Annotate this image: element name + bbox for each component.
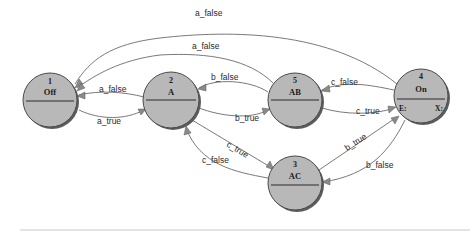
arrowhead-icon [262, 108, 270, 115]
arrowhead-icon [321, 85, 330, 92]
edge-3-to-2: c_false [184, 126, 268, 178]
edge-5-to-4: c_true [322, 106, 396, 116]
edge-label: b_false [211, 72, 239, 82]
node-name: Off [44, 87, 56, 97]
node-name: On [415, 84, 427, 94]
edge-label: a_false [195, 8, 223, 18]
edge-label: b_false [366, 160, 394, 170]
state-node-ac[interactable]: 3 AC [268, 156, 324, 212]
state-node-ab[interactable]: 5 AB [268, 73, 324, 129]
node-name: AB [289, 87, 301, 97]
arrowhead-icon [391, 116, 399, 124]
edge-2-to-5: b_true [199, 108, 270, 123]
edge-label: b_true [343, 131, 369, 153]
edge-label: b_true [235, 113, 259, 123]
node-id: 1 [48, 77, 52, 86]
state-node-on[interactable]: 4 On E: X: [394, 69, 450, 125]
entry-action-label: E: [399, 104, 407, 113]
arrowhead-icon [388, 106, 396, 113]
arrowhead-icon [184, 126, 191, 135]
node-id: 4 [419, 72, 423, 81]
edge-label: c_false [331, 77, 358, 87]
node-id: 5 [293, 76, 297, 85]
state-node-a[interactable]: 2 A [143, 72, 201, 130]
edge-5-to-2: b_false [198, 72, 268, 92]
edge-2-to-1: a_false [77, 84, 144, 99]
state-node-off[interactable]: 1 Off [23, 73, 79, 129]
exit-action-label: X: [435, 104, 443, 113]
edge-label: a_false [99, 84, 127, 94]
state-diagram: a_false a_false a_false a_true b_false b… [0, 0, 475, 232]
edge-label: c_false [202, 155, 229, 165]
edge-label: a_false [192, 41, 220, 51]
edge-label: c_true [356, 106, 380, 116]
edge-1-to-2: a_true [79, 109, 146, 126]
edge-4-to-3: b_false [322, 120, 405, 185]
node-id: 3 [293, 160, 297, 169]
node-id: 2 [169, 76, 173, 85]
edge-label: a_true [97, 116, 121, 126]
node-name: A [168, 87, 175, 97]
edge-4-to-5: c_false [321, 77, 394, 92]
node-name: AC [289, 171, 301, 181]
